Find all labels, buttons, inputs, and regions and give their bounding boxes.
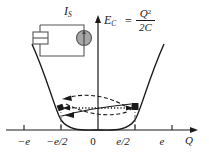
state-marker-right xyxy=(132,103,139,110)
y-axis-arrowhead xyxy=(95,15,101,23)
x-tick-label-0: 0 xyxy=(85,135,101,147)
formula-fraction: Q2 2C xyxy=(136,8,155,33)
y-axis-label: EC xyxy=(104,14,116,27)
state-marker-left xyxy=(57,104,65,112)
formula-denominator: 2C xyxy=(136,22,155,33)
x-tick-label-e-2: e/2 xyxy=(108,135,138,147)
formula-numerator: Q2 xyxy=(136,8,155,19)
x-tick-label--e-2: −e/2 xyxy=(40,135,74,147)
solid-arrowhead-left xyxy=(65,112,74,118)
inset-current-source-label: IS xyxy=(64,5,72,18)
inset-circuit xyxy=(33,25,92,56)
x-axis-arrowhead xyxy=(190,127,198,133)
x-axis-label: Q xyxy=(180,134,198,146)
figure-charging-energy-parabola: IS EC = Q2 2C −e −e/2 0 e/2 e Q xyxy=(0,0,209,156)
equals-sign: = xyxy=(125,15,132,27)
dashed-arrowhead-left xyxy=(62,96,72,102)
x-tick-label--e: −e xyxy=(12,135,36,147)
x-tick-label-e: e xyxy=(152,135,172,147)
